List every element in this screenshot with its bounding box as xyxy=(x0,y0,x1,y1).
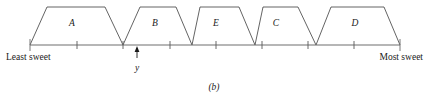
pointer-arrow-head-icon xyxy=(135,46,140,52)
set-label-b: B xyxy=(152,18,158,28)
membership-trapezoid-a xyxy=(30,7,123,45)
pointer-group: y xyxy=(134,46,140,73)
axis-group xyxy=(30,39,400,51)
set-label-a: A xyxy=(68,18,75,28)
membership-trapezoid-c xyxy=(255,7,316,45)
set-labels: A B E C D xyxy=(68,18,358,28)
axis-label-most-sweet: Most sweet xyxy=(379,52,423,62)
figure-caption: (b) xyxy=(208,82,219,93)
set-label-c: C xyxy=(273,18,280,28)
set-label-d: D xyxy=(351,18,359,28)
fuzzy-sets-diagram: y A B E C D Least sweet Most sweet (b) xyxy=(0,0,429,98)
axis-label-least-sweet: Least sweet xyxy=(6,52,51,62)
membership-trapezoid-e xyxy=(192,7,255,45)
pointer-label-y: y xyxy=(134,63,140,73)
set-label-e: E xyxy=(212,18,219,28)
fuzzy-membership-figure: y A B E C D Least sweet Most sweet (b) xyxy=(0,0,429,98)
